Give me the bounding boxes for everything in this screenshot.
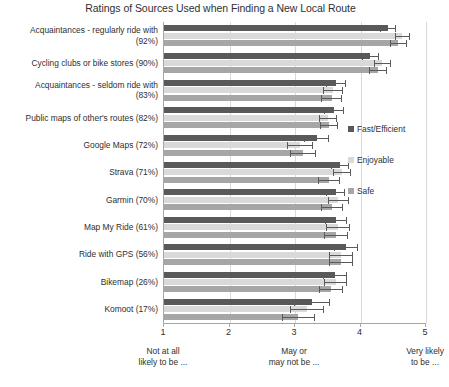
legend-label: Enjoyable	[357, 155, 394, 165]
category-label-line: Ride with GPS (56%)	[0, 249, 158, 260]
error-bar	[390, 43, 407, 44]
error-bar	[326, 83, 346, 84]
error-bar-cap	[390, 40, 391, 47]
bar-group	[164, 186, 426, 213]
category-label-line: Strava (71%)	[0, 167, 158, 178]
legend-label: Safe	[357, 186, 374, 196]
x-anchor-label-line: Very likely	[379, 346, 449, 357]
category-label: Map My Ride (61%)	[0, 222, 158, 233]
bar-group	[164, 22, 426, 49]
bar-line	[164, 87, 426, 93]
category-label-line: (92%)	[0, 36, 158, 47]
error-bar-cap	[342, 286, 343, 293]
x-anchor-label-line: to be ...	[379, 357, 449, 368]
bar-safe	[164, 150, 303, 156]
error-bar	[369, 70, 387, 71]
error-bar-cap	[329, 299, 330, 306]
error-bar-cap	[349, 224, 350, 231]
error-bar	[334, 247, 358, 248]
error-bar	[321, 207, 343, 208]
category-label-line: Acquaintances - regularly ride with	[0, 25, 158, 36]
error-bar-cap	[319, 115, 320, 122]
error-bar-cap	[323, 306, 324, 313]
bar-enjoyable	[164, 169, 342, 175]
bar-safe	[164, 232, 336, 238]
bar-fast-efficient	[164, 299, 312, 305]
error-bar-cap	[287, 142, 288, 149]
error-bar-cap	[326, 80, 327, 87]
category-label-line: Komoot (17%)	[0, 304, 158, 315]
error-bar-cap	[343, 107, 344, 114]
bar-line	[164, 95, 426, 101]
category-label: Acquaintances - seldom ride with(83%)	[0, 80, 158, 101]
error-bar-cap	[374, 60, 375, 67]
error-bar-cap	[282, 314, 283, 321]
bar-group	[164, 268, 426, 295]
error-bar-cap	[331, 162, 332, 169]
error-bar	[287, 145, 313, 146]
error-bar-cap	[336, 115, 337, 122]
bar-safe	[164, 67, 378, 73]
bar-fast-efficient	[164, 25, 388, 31]
x-tick-label: 4	[347, 327, 373, 337]
error-bar	[380, 28, 396, 29]
error-bar-cap	[334, 244, 335, 251]
error-bar-cap	[326, 189, 327, 196]
error-bar	[290, 309, 324, 310]
error-bar	[319, 118, 337, 119]
bar-line	[164, 224, 426, 230]
error-bar	[282, 317, 315, 318]
category-label-line: Map My Ride (61%)	[0, 222, 158, 233]
error-bar	[321, 98, 342, 99]
error-bar	[319, 289, 344, 290]
category-label-line: Acquaintances - seldom ride with	[0, 80, 158, 91]
error-bar-cap	[321, 95, 322, 102]
error-bar	[290, 153, 316, 154]
error-bar	[331, 165, 349, 166]
error-bar	[324, 110, 344, 111]
error-bar-cap	[395, 25, 396, 32]
bar-group	[164, 77, 426, 104]
category-label: Strava (71%)	[0, 167, 158, 178]
category-label-line: Public maps of other's routes (82%)	[0, 113, 158, 124]
bar-fast-efficient	[164, 217, 336, 223]
bar-enjoyable	[164, 279, 336, 285]
legend-item[interactable]: Safe	[348, 186, 374, 196]
error-bar	[329, 262, 353, 263]
error-bar-cap	[315, 150, 316, 157]
bar-enjoyable	[164, 33, 402, 39]
bar-line	[164, 232, 426, 238]
bar-fast-efficient	[164, 189, 336, 195]
error-bar-cap	[346, 279, 347, 286]
x-tick-label: 5	[412, 327, 438, 337]
error-bar	[324, 235, 348, 236]
error-bar-cap	[369, 67, 370, 74]
error-bar	[374, 63, 391, 64]
error-bar-cap	[323, 87, 324, 94]
bar-enjoyable	[164, 142, 300, 148]
error-bar-cap	[342, 204, 343, 211]
x-tick-label: 1	[150, 327, 176, 337]
error-bar-cap	[321, 204, 322, 211]
bar-enjoyable	[164, 197, 338, 203]
error-bar	[326, 192, 346, 193]
error-bar-cap	[378, 53, 379, 60]
error-bar	[328, 200, 349, 201]
error-bar-cap	[362, 53, 363, 60]
bar-enjoyable	[164, 115, 328, 121]
category-label-line: Garmin (70%)	[0, 195, 158, 206]
bar-line	[164, 142, 426, 148]
legend-item[interactable]: Fast/Efficient	[348, 124, 405, 134]
error-bar-cap	[342, 87, 343, 94]
legend-item[interactable]: Enjoyable	[348, 155, 394, 165]
error-bar-cap	[290, 306, 291, 313]
error-bar-cap	[294, 299, 295, 306]
error-bar	[325, 220, 347, 221]
bar-line	[164, 279, 426, 285]
error-bar-cap	[314, 314, 315, 321]
bar-fast-efficient	[164, 80, 336, 86]
x-axis-anchor-labels: Not at alllikely to be ...May ormay not …	[0, 346, 441, 380]
bar-group	[164, 49, 426, 76]
error-bar-cap	[386, 67, 387, 74]
error-bar-cap	[324, 107, 325, 114]
